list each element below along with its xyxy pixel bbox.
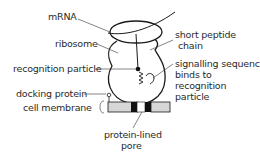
label-signalling-1: signalling sequence [175, 58, 260, 69]
label-docking-protein: docking protein [16, 88, 87, 99]
docking-protein-circle [107, 93, 111, 97]
label-mrna: mRNA [48, 11, 77, 22]
label-cell-membrane: cell membrane [23, 102, 92, 113]
recognition-particle-dot [136, 67, 141, 72]
signalling-sequence-loop [146, 74, 154, 84]
label-short-peptide-2: chain [178, 40, 203, 51]
label-pore-1: protein-lined [104, 129, 162, 140]
signalling-sequence-zigzag [139, 72, 143, 84]
cell-membrane [108, 102, 170, 112]
label-signalling-3: recognition [175, 80, 226, 91]
label-recognition-particle: recognition particle [13, 63, 102, 74]
label-ribosome: ribosome [55, 38, 98, 49]
label-signalling-2: binds to [175, 69, 212, 80]
ribosome-diagram: mRNA ribosome recognition particle docki… [0, 0, 260, 163]
label-signalling-4: particle [175, 91, 210, 102]
label-pore-2: pore [121, 140, 142, 151]
label-short-peptide-1: short peptide [175, 29, 236, 40]
